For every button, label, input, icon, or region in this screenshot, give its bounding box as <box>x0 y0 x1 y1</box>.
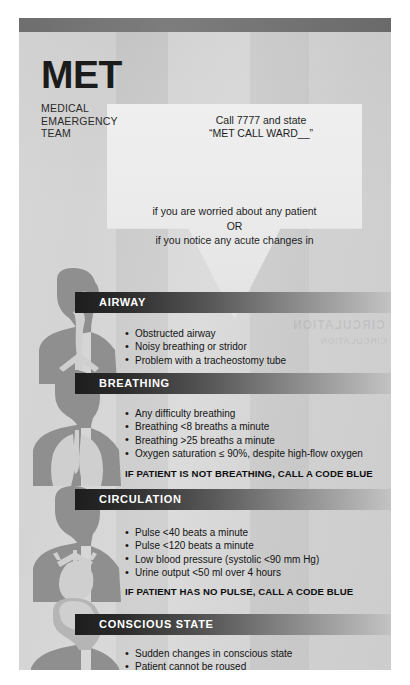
band-breathing: BREATHING <box>75 373 391 394</box>
poster-sheet: MET MEDICAL EMAERGENCY TEAM if you are w… <box>19 18 391 670</box>
bleed-through-artifact: CIRCULATION <box>292 318 385 332</box>
trigger-line-2: OR <box>107 219 362 234</box>
page-title: MET <box>41 56 122 93</box>
top-bar <box>19 18 391 32</box>
call-instruction: Call 7777 and state “MET CALL WARD__” <box>169 114 353 140</box>
subtitle-line-2: EMAERGENCY <box>41 115 122 128</box>
airway-silhouette-icon <box>19 266 131 384</box>
band-circulation: CIRCULATION <box>75 489 391 510</box>
trigger-line-1: if you are worried about any patient <box>107 204 362 219</box>
band-airway: AIRWAY <box>75 292 391 313</box>
list-item: Obstructed airway <box>125 327 286 340</box>
call-line-1: Call 7777 and state <box>169 114 353 127</box>
list-item: Sudden changes in conscious state <box>125 647 292 660</box>
call-line-2: “MET CALL WARD__” <box>169 127 353 140</box>
bullet-list-conscious-state: Sudden changes in conscious state Patien… <box>125 647 292 670</box>
subtitle-line-1: MEDICAL <box>41 102 122 115</box>
section-label-conscious-state: CONSCIOUS STATE <box>99 614 214 635</box>
list-item: Pulse <120 beats a minute <box>125 539 319 552</box>
bleed-through-artifact-secondary: CIRCULATION <box>320 336 387 346</box>
met-poster: MET MEDICAL EMAERGENCY TEAM if you are w… <box>0 0 410 685</box>
bullet-list-airway: Obstructed airway Noisy breathing or str… <box>125 327 286 367</box>
list-item: Low blood pressure (systolic <90 mm Hg) <box>125 553 319 566</box>
bullet-list-breathing: Any difficulty breathing Breathing <8 br… <box>125 407 363 461</box>
list-item: Breathing >25 breaths a minute <box>125 434 363 447</box>
poster-subtitle: MEDICAL EMAERGENCY TEAM <box>41 102 122 140</box>
list-item: Any difficulty breathing <box>125 407 363 420</box>
list-item: Oxygen saturation ≤ 90%, despite high-fl… <box>125 447 363 460</box>
list-item: Problem with a tracheostomy tube <box>125 354 286 367</box>
list-item: Noisy breathing or stridor <box>125 340 286 353</box>
subtitle-line-3: TEAM <box>41 127 122 140</box>
section-label-breathing: BREATHING <box>99 373 170 394</box>
code-blue-breathing: IF PATIENT IS NOT BREATHING, CALL A CODE… <box>125 468 373 479</box>
list-item: Breathing <8 breaths a minute <box>125 420 363 433</box>
poster-header: MET MEDICAL EMAERGENCY TEAM <box>41 56 122 140</box>
code-blue-circulation: IF PATIENT HAS NO PULSE, CALL A CODE BLU… <box>125 586 353 597</box>
list-item: Urine output <50 ml over 4 hours <box>125 566 319 579</box>
section-label-circulation: CIRCULATION <box>99 489 182 510</box>
trigger-text: if you are worried about any patient OR … <box>107 204 362 248</box>
section-label-airway: AIRWAY <box>99 292 146 313</box>
band-conscious-state: CONSCIOUS STATE <box>75 614 391 635</box>
trigger-line-3: if you notice any acute changes in <box>107 233 362 248</box>
list-item: Pulse <40 beats a minute <box>125 526 319 539</box>
bullet-list-circulation: Pulse <40 beats a minute Pulse <120 beat… <box>125 526 319 580</box>
list-item: Patient cannot be roused <box>125 660 292 670</box>
